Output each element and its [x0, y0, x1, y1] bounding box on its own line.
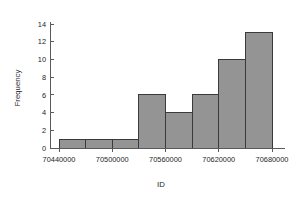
histogram-bar [245, 33, 272, 148]
bars-group [59, 33, 272, 148]
histogram-bar [192, 95, 219, 148]
x-tick-label: 70560000 [149, 155, 182, 164]
y-tick-label: 2 [42, 126, 46, 135]
y-tick-label: 6 [42, 91, 46, 100]
x-tick-labels-group: 7044000070500000705600007062000070680000 [43, 155, 289, 164]
y-axis-title: Frequency [13, 69, 22, 106]
x-axis-title: ID [157, 180, 165, 189]
x-tick-label: 70500000 [96, 155, 129, 164]
histogram-bar [166, 113, 193, 148]
y-tick-label: 14 [38, 20, 46, 29]
histogram-bar [86, 139, 113, 148]
figure-container: 02468101214 7044000070500000705600007062… [0, 0, 301, 200]
y-tick-label: 8 [42, 73, 46, 82]
histogram-bar [219, 59, 246, 148]
y-tick-label: 12 [38, 37, 46, 46]
x-tick-label: 70440000 [43, 155, 76, 164]
y-tick-label: 4 [42, 108, 46, 117]
y-tick-label: 10 [38, 55, 46, 64]
histogram-svg: 02468101214 7044000070500000705600007062… [0, 0, 301, 200]
x-tick-label: 70620000 [202, 155, 235, 164]
y-tick-label: 0 [42, 144, 46, 153]
y-tick-labels-group: 02468101214 [38, 20, 46, 153]
histogram-bar [139, 95, 166, 148]
histogram-bar [59, 139, 86, 148]
histogram-plot: 02468101214 7044000070500000705600007062… [0, 0, 301, 200]
histogram-bar [112, 139, 139, 148]
x-tick-label: 70680000 [256, 155, 289, 164]
